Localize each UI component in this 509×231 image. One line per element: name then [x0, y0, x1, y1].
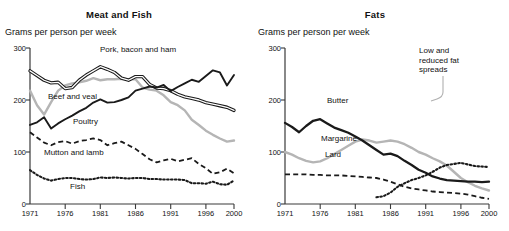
xtick-1996-fats: 1996	[453, 209, 470, 218]
series-canvas-meat-and-fish	[30, 48, 234, 204]
plot-area-fats: 300 200 100 0 1971 1976 1981 1986 1991 1…	[285, 48, 489, 204]
ytick-100-meat: 100	[13, 147, 26, 156]
xtick-2000-fats: 2000	[481, 209, 498, 218]
xtick-1986-fats: 1986	[382, 209, 399, 218]
panel-meat-and-fish: Meat and Fish Grams per person per week …	[0, 0, 254, 231]
xtick-1986-meat: 1986	[127, 209, 144, 218]
series-label-pork: Pork, bacon and ham	[100, 45, 176, 55]
series-label-margarine: Margarine	[321, 134, 357, 144]
chart-title-meat-and-fish: Meat and Fish	[14, 9, 224, 20]
xtick-1976-meat: 1976	[57, 209, 74, 218]
xtick-1991-meat: 1991	[162, 209, 179, 218]
ytick-200-fats: 200	[268, 95, 281, 104]
ytick-100-fats: 100	[268, 147, 281, 156]
series-label-beef: Beef and veal	[48, 92, 100, 102]
xtick-1981-meat: 1981	[92, 209, 109, 218]
series-lines-fats	[285, 119, 489, 199]
xtick-1971-meat: 1971	[22, 209, 39, 218]
series-lines-meat	[30, 67, 234, 185]
series-label-mutton: Mutton and lamb	[44, 148, 104, 158]
xtick-2000-meat: 2000	[226, 209, 243, 218]
chart-page: Meat and Fish Grams per person per week …	[0, 0, 509, 231]
ytick-300-meat: 300	[13, 44, 26, 53]
axis-caption-fats: Grams per person per week	[258, 27, 370, 37]
series-label-butter: Butter	[327, 96, 348, 106]
ytick-300-fats: 300	[268, 44, 281, 53]
panel-fats: Fats Grams per person per week 300 200 1…	[255, 0, 509, 231]
ytick-0-fats: 0	[277, 200, 281, 209]
xtick-1996-meat: 1996	[198, 209, 215, 218]
chart-title-fats: Fats	[275, 9, 475, 20]
ytick-200-meat: 200	[13, 95, 26, 104]
xtick-1981-fats: 1981	[347, 209, 364, 218]
ytick-0-meat: 0	[22, 200, 26, 209]
series-label-fish: Fish	[70, 182, 85, 192]
xtick-1976-fats: 1976	[312, 209, 329, 218]
series-label-lard: Lard	[325, 150, 341, 160]
axis-caption-meat-and-fish: Grams per person per week	[5, 27, 117, 37]
annotation-leader-line-spreads	[431, 76, 443, 101]
xtick-1971-fats: 1971	[277, 209, 294, 218]
series-label-poultry: Poultry	[73, 117, 98, 127]
xtick-1991-fats: 1991	[417, 209, 434, 218]
series-label-low-reduced-fat-spreads: Low and reduced fat spreads	[419, 46, 471, 75]
plot-area-meat-and-fish: 300 200 100 0 1971 1976 1981 1986 1991 1…	[30, 48, 234, 204]
